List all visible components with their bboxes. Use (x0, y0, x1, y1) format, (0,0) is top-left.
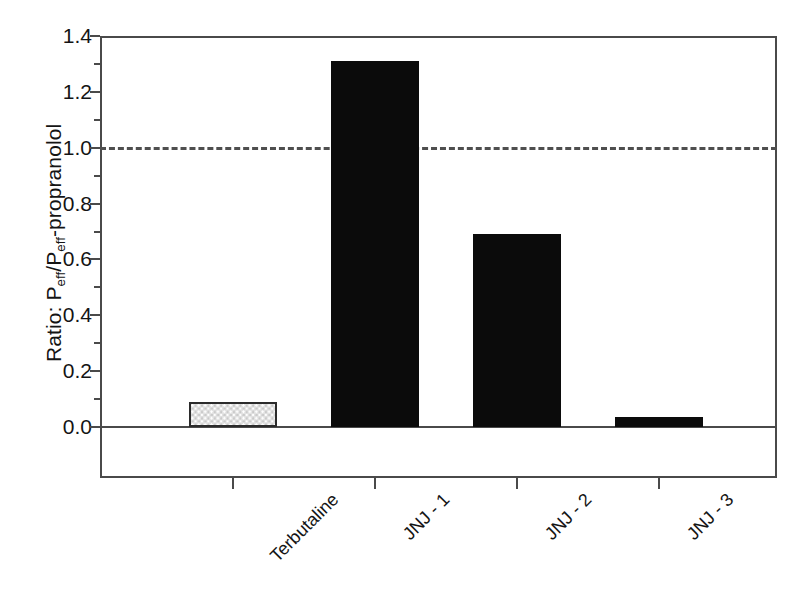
y-axis-tick-label: 0.8 (40, 193, 92, 214)
y-axis-tick-minor (94, 63, 100, 65)
unity-reference-line (100, 147, 777, 150)
bar[interactable] (331, 61, 419, 427)
x-axis-tick-label: JNJ - 3 (684, 490, 737, 543)
y-axis-tick-minor (94, 231, 100, 233)
y-axis-tick-minor (94, 398, 100, 400)
y-axis-tick-minor (94, 342, 100, 344)
y-axis-tick-label: 0.2 (40, 360, 92, 381)
y-axis-tick-major (90, 426, 100, 428)
y-axis-tick-major (90, 91, 100, 93)
y-axis-tick-label: 0.6 (40, 248, 92, 269)
y-axis-tick-label: 1.0 (40, 137, 92, 158)
bar[interactable] (189, 402, 277, 427)
y-axis-tick-minor (94, 286, 100, 288)
y-axis-tick-major (90, 370, 100, 372)
bar-chart-figure: Ratio: Peff/Peff-propranolol 0.00.20.40.… (0, 0, 802, 596)
y-axis-tick-major (90, 147, 100, 149)
y-axis-tick-label-group: 0.00.20.40.60.81.01.21.4 (32, 0, 92, 596)
y-axis-tick-label: 1.4 (40, 25, 92, 46)
y-axis-tick-major (90, 258, 100, 260)
x-axis-tick-major (658, 478, 660, 489)
x-axis-tick-label: JNJ - 2 (542, 490, 595, 543)
y-axis-tick-minor (94, 119, 100, 121)
x-axis-tick-label: JNJ - 1 (400, 490, 453, 543)
y-axis-tick-major (90, 203, 100, 205)
x-axis-tick-major (374, 478, 376, 489)
y-axis-tick-major (90, 314, 100, 316)
bar[interactable] (473, 234, 561, 427)
x-axis-tick-major (232, 478, 234, 489)
y-axis-tick-label: 0.0 (40, 416, 92, 437)
x-axis-tick-major (516, 478, 518, 489)
y-axis-tick-label: 1.2 (40, 81, 92, 102)
bar[interactable] (615, 417, 703, 427)
y-axis-tick-major (90, 35, 100, 37)
y-axis-tick-minor (94, 175, 100, 177)
y-axis-tick-label: 0.4 (40, 304, 92, 325)
plot-area (100, 36, 777, 478)
x-axis-tick-label: Terbutaline (267, 490, 342, 565)
